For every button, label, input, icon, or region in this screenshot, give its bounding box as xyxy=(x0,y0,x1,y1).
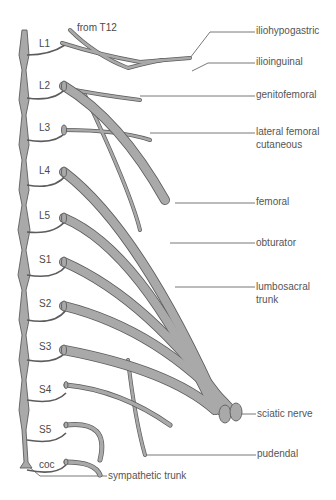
label-ilioinguinal: ilioinguinal xyxy=(256,56,303,68)
label-femoral: femoral xyxy=(256,196,289,208)
root-label-S2: S2 xyxy=(39,298,51,310)
label-lateral-femoral-cutaneous-2: cutaneous xyxy=(256,139,302,151)
label-from-t12: from T12 xyxy=(77,22,117,34)
root-label-L3: L3 xyxy=(39,122,50,134)
label-iliohypogastric: iliohypogastric xyxy=(256,25,319,37)
label-genitofemoral: genitofemoral xyxy=(256,89,317,101)
label-pudendal: pudendal xyxy=(257,448,298,460)
lumbosacral-plexus-diagram: L1 L2 L3 L4 L5 S1 S2 S3 S4 S5 coc from T… xyxy=(0,0,336,500)
label-lumbosacral-trunk-1: lumbosacral xyxy=(256,281,310,293)
label-lumbosacral-trunk-2: trunk xyxy=(256,294,278,306)
root-label-L5: L5 xyxy=(39,210,50,222)
root-label-L4: L4 xyxy=(39,165,50,177)
root-label-S4: S4 xyxy=(39,384,51,396)
root-label-L2: L2 xyxy=(39,80,50,92)
root-label-S5: S5 xyxy=(39,424,51,436)
root-label-L1: L1 xyxy=(39,38,50,50)
root-label-coc: coc xyxy=(39,459,55,471)
label-sciatic-nerve: sciatic nerve xyxy=(257,408,313,420)
root-label-S1: S1 xyxy=(39,254,51,266)
label-obturator: obturator xyxy=(256,237,296,249)
label-lateral-femoral-cutaneous-1: lateral femoral xyxy=(256,126,319,138)
root-label-S3: S3 xyxy=(39,341,51,353)
label-sympathetic-trunk: sympathetic trunk xyxy=(108,470,186,482)
